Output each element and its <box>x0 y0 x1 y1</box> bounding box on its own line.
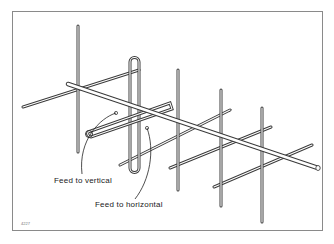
feed-to-vertical-label: Feed to vertical <box>54 176 112 185</box>
leader-horizontal <box>135 128 151 199</box>
leader-vertical <box>82 113 116 174</box>
figure-number: 4227 <box>21 221 30 226</box>
horizontal-elements <box>23 70 312 187</box>
feed-to-horizontal-label: Feed to horizontal <box>95 200 163 209</box>
vertical-elements <box>78 26 262 222</box>
antenna-drawing: .rod-o { stroke: #3a3a3a; stroke-linecap… <box>0 0 334 244</box>
